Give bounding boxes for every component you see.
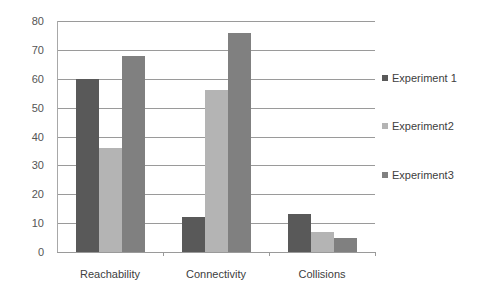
legend-item: Experiment3 — [382, 169, 454, 181]
y-tick-label: 30 — [0, 159, 44, 171]
bar — [76, 79, 99, 252]
y-axis — [57, 21, 58, 253]
y-tick-label: 0 — [0, 246, 44, 258]
x-tick-label: Collisions — [269, 268, 375, 280]
bar-chart: 01020304050607080 ReachabilityConnectivi… — [0, 0, 481, 299]
x-tick-mark — [375, 252, 376, 256]
gridline — [57, 79, 375, 80]
legend-label: Experiment2 — [392, 120, 454, 132]
bar — [288, 214, 311, 252]
bar — [122, 56, 145, 252]
legend-label: Experiment3 — [392, 169, 454, 181]
bar — [334, 238, 357, 252]
bar — [311, 232, 334, 252]
y-tick-label: 70 — [0, 44, 44, 56]
bar — [205, 90, 228, 252]
x-tick-mark — [163, 252, 164, 256]
x-tick-label: Connectivity — [163, 268, 269, 280]
legend-swatch-icon — [382, 172, 388, 178]
gridline — [57, 21, 375, 22]
x-tick-mark — [269, 252, 270, 256]
legend-label: Experiment 1 — [392, 72, 457, 84]
legend-swatch-icon — [382, 75, 388, 81]
gridline — [57, 50, 375, 51]
y-tick-label: 80 — [0, 15, 44, 27]
bar — [99, 148, 122, 252]
y-tick-label: 60 — [0, 73, 44, 85]
x-tick-label: Reachability — [57, 268, 163, 280]
y-tick-label: 40 — [0, 131, 44, 143]
y-tick-label: 10 — [0, 217, 44, 229]
x-axis — [57, 252, 375, 253]
y-tick-label: 20 — [0, 188, 44, 200]
bar — [228, 33, 251, 252]
legend-item: Experiment 1 — [382, 72, 457, 84]
legend-swatch-icon — [382, 123, 388, 129]
y-tick-label: 50 — [0, 102, 44, 114]
bar — [182, 217, 205, 252]
legend-item: Experiment2 — [382, 120, 454, 132]
